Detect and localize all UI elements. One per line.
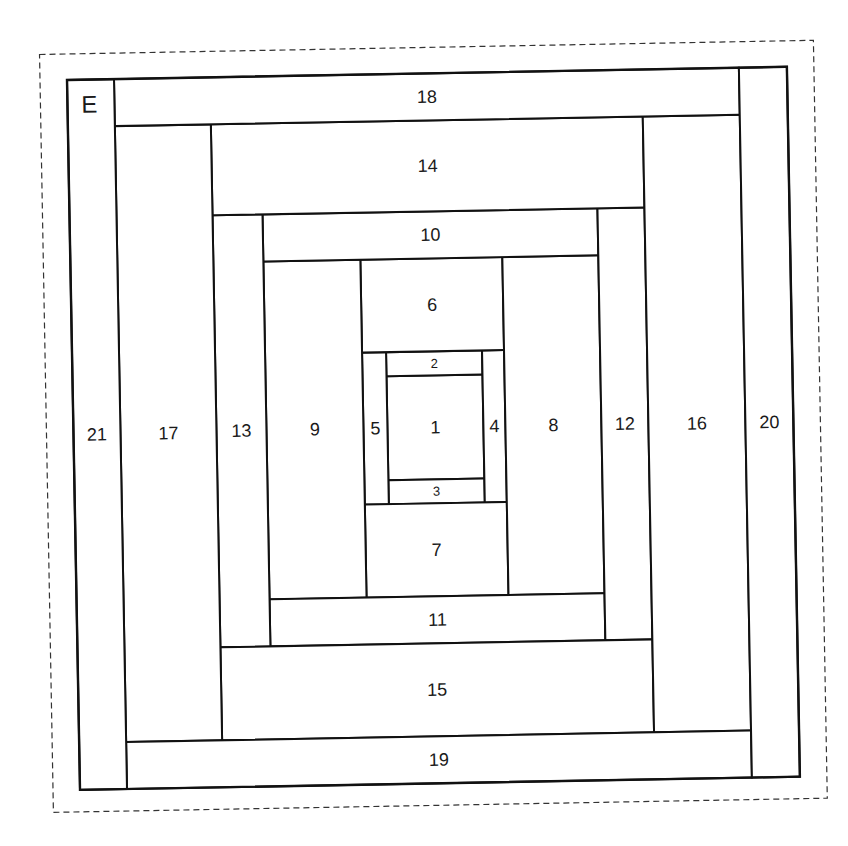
piece-12: 12	[597, 207, 652, 640]
piece-16: 16	[643, 115, 751, 733]
piece-number-label: 12	[615, 414, 635, 434]
piece-1: 1	[386, 374, 484, 480]
piece-number-label: 19	[429, 750, 449, 770]
piece-6: 6	[360, 257, 504, 353]
piece-14: 14	[211, 116, 645, 215]
piece-number-label: 3	[433, 484, 441, 499]
quilt-block-diagram: 123456789101112131415161718192021 E	[0, 0, 848, 846]
piece-4: 4	[482, 350, 507, 502]
piece-number-label: 2	[430, 356, 438, 371]
piece-9: 9	[263, 260, 366, 600]
piece-number-label: 5	[370, 418, 380, 438]
piece-17: 17	[115, 124, 222, 742]
diagram-svg: 123456789101112131415161718192021 E	[0, 0, 848, 846]
piece-number-label: 10	[420, 225, 440, 245]
piece-15: 15	[220, 639, 654, 740]
rotated-group: 123456789101112131415161718192021 E	[40, 40, 828, 812]
piece-number-label: 13	[231, 421, 251, 441]
piece-number-label: 21	[87, 424, 107, 444]
piece-5: 5	[362, 352, 389, 504]
piece-number-label: 8	[548, 415, 558, 435]
piece-number-label: 7	[431, 540, 441, 560]
piece-number-label: 18	[417, 87, 437, 107]
piece-number-label: 1	[430, 417, 440, 437]
piece-number-label: 17	[158, 423, 178, 443]
piece-number-label: 9	[310, 419, 320, 439]
piece-number-label: 20	[759, 412, 779, 432]
piece-number-label: 11	[428, 610, 447, 630]
piece-11: 11	[270, 593, 606, 646]
piece-10: 10	[262, 208, 598, 261]
piece-number-label: 6	[427, 295, 437, 315]
block-label: E	[81, 90, 98, 117]
pieces-group: 123456789101112131415161718192021	[67, 67, 800, 790]
piece-2: 2	[386, 350, 482, 376]
piece-number-label: 4	[489, 416, 499, 436]
piece-number-label: 14	[417, 156, 437, 176]
piece-7: 7	[365, 502, 509, 598]
piece-number-label: 16	[687, 413, 707, 433]
piece-3: 3	[388, 478, 484, 504]
piece-13: 13	[213, 214, 271, 647]
piece-8: 8	[502, 255, 604, 595]
piece-number-label: 15	[427, 680, 447, 700]
